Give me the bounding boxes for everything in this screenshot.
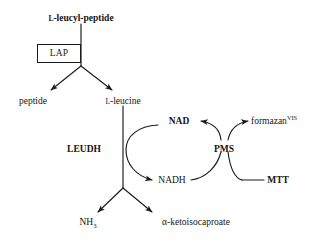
- leudh-label: LEUDH: [67, 145, 101, 155]
- lap-enzyme-box: LAP: [37, 44, 81, 63]
- nadh-label: NADH: [158, 176, 185, 186]
- arc-pms-to-formazan: [228, 121, 248, 140]
- mtt-label: MTT: [267, 176, 289, 186]
- pathway-diagram: L-leucyl-peptide LAP peptide L-leucine L…: [0, 0, 316, 243]
- formazan-label: formazanVIS: [251, 117, 297, 127]
- nad-label: NAD: [169, 117, 190, 127]
- ammonia-subscript: 3: [93, 222, 96, 229]
- arrow-to-peptide: [51, 66, 81, 90]
- peptide-label: peptide: [19, 97, 47, 107]
- lap-label: LAP: [38, 45, 80, 58]
- arc-mtt-to-pms: [228, 152, 242, 180]
- formazan-name: formazan: [251, 116, 287, 126]
- arrow-to-ammonia: [98, 188, 123, 212]
- arrow-to-keto-acid: [123, 188, 152, 212]
- substrate-label: L-leucyl-peptide: [48, 14, 113, 24]
- leucine-label: L-leucine: [105, 97, 140, 107]
- ammonia-base: NH: [79, 217, 93, 227]
- keto-acid-label: α-ketoisocaproate: [162, 218, 230, 228]
- substrate-name: -leucyl-peptide: [53, 13, 113, 23]
- pms-label: PMS: [214, 145, 234, 155]
- formazan-superscript: VIS: [287, 114, 297, 121]
- arc-nad-to-nadh: [126, 125, 158, 180]
- arrow-to-leucine: [81, 66, 112, 90]
- ammonia-label: NH3: [79, 218, 96, 228]
- arc-nadh-to-pms: [191, 152, 221, 180]
- arc-pms-to-nad: [201, 121, 221, 140]
- leucine-name: -leucine: [110, 96, 141, 106]
